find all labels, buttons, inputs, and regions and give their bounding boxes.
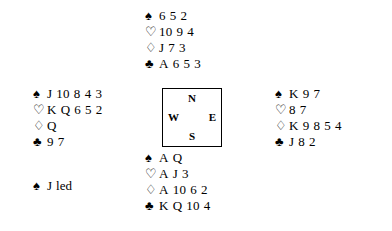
hand-west: ♠J10843♡KQ652♢Q♣97 [33,86,103,150]
card-rank: Q [173,150,183,166]
suit-row-spade: ♠J10843 [33,86,103,102]
hand-south: ♠AQ♡AJ3♢A1062♣KQ104 [145,150,211,214]
card-ranks: J82 [289,134,316,150]
club-icon: ♣ [275,134,289,150]
suit-row-diamond: ♢J73 [145,40,201,56]
card-rank: 6 [173,56,180,72]
compass-box: N W E S [162,88,222,147]
card-rank: A [159,166,169,182]
card-rank: 6 [159,8,166,24]
card-rank: 4 [335,118,342,134]
diamond-icon: ♢ [33,118,47,134]
card-ranks: 87 [289,102,307,118]
card-rank: 9 [47,134,54,150]
suit-row-heart: ♡AJ3 [145,166,211,182]
card-rank: 9 [303,86,310,102]
suit-row-club: ♣A653 [145,56,201,72]
card-rank: 9 [177,24,184,40]
card-rank: 4 [85,86,92,102]
heart-icon: ♡ [145,24,159,40]
card-rank: 6 [190,182,197,198]
card-rank: 7 [300,102,307,118]
card-rank: Q [61,102,71,118]
card-rank: 7 [313,86,320,102]
card-ranks: J73 [159,40,186,56]
card-rank: 8 [313,118,320,134]
compass-label-east: E [209,112,216,123]
card-rank: 10 [186,198,200,214]
suit-row-club: ♣97 [33,134,103,150]
card-ranks: AJ3 [159,166,189,182]
heart-icon: ♡ [33,102,47,118]
card-rank: 2 [309,134,316,150]
suit-row-spade: ♠K97 [275,86,342,102]
card-rank: 7 [58,134,65,150]
card-rank: 10 [56,86,70,102]
card-ranks: KQ104 [159,198,211,214]
suit-row-diamond: ♢A1062 [145,182,211,198]
club-icon: ♣ [145,198,159,214]
suit-row-club: ♣J82 [275,134,342,150]
card-rank: 8 [74,86,81,102]
card-rank: A [159,56,169,72]
card-ranks: A1062 [159,182,208,198]
bridge-deal-diagram: ♠652♡1094♢J73♣A653 ♠J10843♡KQ652♢Q♣97 ♠K… [0,0,392,231]
heart-icon: ♡ [145,166,159,182]
suit-row-heart: ♡1094 [145,24,201,40]
card-ranks: K97 [289,86,320,102]
card-ranks: KQ652 [47,102,103,118]
card-rank: K [159,198,169,214]
spade-icon: ♠ [145,8,159,24]
card-rank: Q [47,118,57,134]
card-rank: K [289,86,299,102]
card-rank: 10 [159,24,173,40]
card-ranks: A653 [159,56,201,72]
card-rank: J [289,134,294,150]
card-rank: 8 [298,134,305,150]
card-rank: 9 [303,118,310,134]
lead-card-rank: J [47,178,52,194]
card-rank: K [289,118,299,134]
card-rank: K [47,102,57,118]
hand-north: ♠652♡1094♢J73♣A653 [145,8,201,72]
opening-lead-note: ♠ J led [33,178,72,194]
card-ranks: 652 [159,8,187,24]
card-rank: 2 [96,102,103,118]
club-icon: ♣ [145,56,159,72]
card-rank: 5 [170,8,177,24]
card-rank: 3 [194,56,201,72]
diamond-icon: ♢ [145,40,159,56]
card-rank: 5 [85,102,92,118]
card-rank: 2 [181,8,188,24]
card-rank: J [173,166,178,182]
suit-row-diamond: ♢Q [33,118,103,134]
spade-icon: ♠ [33,178,47,194]
card-ranks: K9854 [289,118,342,134]
card-rank: 6 [74,102,81,118]
card-ranks: 1094 [159,24,194,40]
hand-east: ♠K97♡87♢K9854♣J82 [275,86,342,150]
suit-row-heart: ♡87 [275,102,342,118]
card-rank: 5 [183,56,190,72]
card-rank: J [47,86,52,102]
suit-row-heart: ♡KQ652 [33,102,103,118]
lead-label: led [56,178,72,194]
diamond-icon: ♢ [275,118,289,134]
card-ranks: 97 [47,134,65,150]
card-rank: J [159,40,164,56]
card-rank: 4 [204,198,211,214]
suit-row-spade: ♠652 [145,8,201,24]
compass-label-south: S [163,131,221,142]
spade-icon: ♠ [275,86,289,102]
spade-icon: ♠ [145,150,159,166]
card-rank: 7 [168,40,175,56]
card-rank: 3 [179,40,186,56]
card-rank: 3 [182,166,189,182]
suit-row-spade: ♠AQ [145,150,211,166]
compass-label-north: N [163,93,221,104]
card-rank: Q [173,198,183,214]
card-rank: A [159,150,169,166]
heart-icon: ♡ [275,102,289,118]
card-ranks: AQ [159,150,182,166]
suit-row-diamond: ♢K9854 [275,118,342,134]
